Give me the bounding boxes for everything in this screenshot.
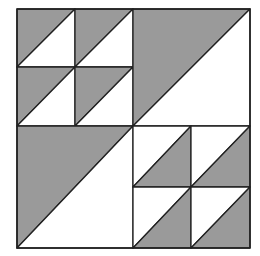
- quadrant-top-left: [17, 9, 133, 126]
- quadrant-bottom-right: [133, 126, 250, 248]
- quadrant-top-right: [133, 9, 250, 126]
- quilt-block-diagram: [0, 0, 260, 256]
- quadrant-bottom-left: [17, 126, 133, 248]
